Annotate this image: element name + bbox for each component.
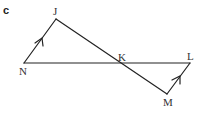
segment-jm — [56, 19, 167, 94]
point-label-n: N — [19, 65, 27, 77]
point-label-k: K — [118, 51, 126, 63]
point-label-j: J — [53, 5, 58, 17]
segment-lm — [167, 63, 190, 94]
point-label-l: L — [187, 50, 194, 62]
segment-nj — [24, 19, 56, 63]
point-label-m: M — [163, 96, 173, 108]
geometry-diagram: J N K L M — [0, 0, 205, 113]
